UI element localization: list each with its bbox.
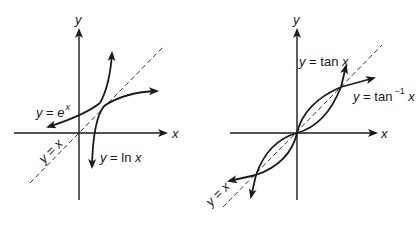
y-axis-label: y: [74, 12, 83, 27]
exp-label: y = xex: [35, 102, 71, 120]
exp-curve-right: [100, 53, 112, 103]
tan-curve: [256, 87, 341, 175]
right-panel: y x y = tan x y = tan−1 x y = x: [202, 12, 415, 210]
ln-curve-top: [104, 91, 157, 106]
y-axis-label: y: [292, 12, 301, 27]
arctan-label: y = tan−1 x: [352, 86, 415, 104]
ln-label: y = ln x: [99, 150, 142, 165]
x-axis-label: x: [380, 126, 388, 141]
arctan-curve: [256, 87, 341, 175]
identity-line: [223, 45, 382, 207]
left-panel: y x y = xex y = ln x y = x: [14, 12, 179, 200]
tan-label: y = tan x: [298, 54, 349, 69]
identity-label-right: y = x: [202, 178, 233, 209]
arctan-arrow-right: [341, 78, 374, 87]
x-axis-label: x: [171, 126, 179, 141]
exp-superscript: x: [65, 102, 71, 112]
inverse-functions-diagram: y x y = xex y = ln x y = x y x y = tan x…: [0, 0, 418, 225]
